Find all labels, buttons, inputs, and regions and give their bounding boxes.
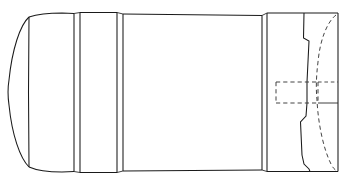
nose-dome-seam-line xyxy=(29,17,30,167)
vessel-body-fill xyxy=(8,14,338,172)
technical-drawing-canvas xyxy=(0,0,342,184)
vessel-side-elevation-drawing xyxy=(0,0,342,184)
